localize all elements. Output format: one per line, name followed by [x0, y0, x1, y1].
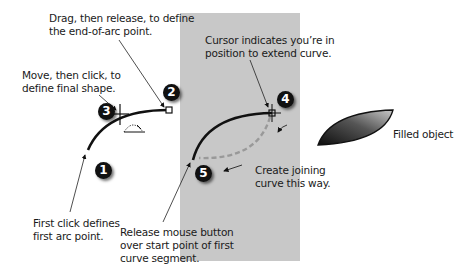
leader-cursor — [250, 60, 268, 107]
direction-arrow-bottom — [224, 165, 242, 171]
annotation-release: Release mouse button over start point of… — [120, 226, 234, 265]
leader-release — [163, 163, 190, 222]
annotation-filled-object: Filled object — [393, 128, 453, 141]
leader-first-click — [70, 155, 85, 212]
annotation-create-joining-line2: curve this way. — [255, 177, 330, 190]
annotation-cursor-line1: Cursor indicates you’re in — [205, 34, 335, 47]
leader-drag — [119, 40, 164, 107]
annotation-drag-line1: Drag, then release, to define — [49, 12, 194, 25]
annotation-first-click-line1: First click defines — [33, 217, 120, 230]
annotation-move-line2: define final shape. — [22, 82, 121, 95]
annotation-move: Move, then click, to define final shape. — [22, 69, 121, 95]
step-badge-5: 5 — [195, 165, 212, 182]
joining-curve-preview — [199, 117, 270, 158]
step-badge-1: 1 — [95, 162, 112, 179]
direction-arrow-top — [278, 125, 287, 132]
annotation-create-joining-line1: Create joining — [255, 164, 330, 177]
arc-tool-cursor-icon — [124, 125, 145, 132]
square-anchor-point-icon — [166, 107, 172, 113]
annotation-drag-line2: the end-of-arc point. — [49, 25, 194, 38]
annotation-cursor: Cursor indicates you’re in position to e… — [205, 34, 335, 60]
step-badge-3: 3 — [98, 103, 115, 120]
annotation-create-joining: Create joining curve this way. — [255, 164, 330, 190]
annotation-release-line2: over start point of first — [120, 239, 234, 252]
crosshair-cursor-icon-extend — [264, 104, 281, 122]
annotation-first-click-line2: first arc point. — [33, 230, 120, 243]
annotation-first-click: First click defines first arc point. — [33, 217, 120, 243]
filled-object-shape — [318, 110, 393, 145]
step-badge-4: 4 — [277, 91, 294, 108]
annotation-cursor-line2: position to extend curve. — [205, 47, 335, 60]
second-arc-curve — [193, 113, 272, 160]
annotation-release-line3: curve segment. — [120, 252, 234, 265]
annotation-release-line1: Release mouse button — [120, 226, 234, 239]
annotation-move-line1: Move, then click, to — [22, 69, 121, 82]
step-badge-2: 2 — [163, 84, 180, 101]
annotation-drag: Drag, then release, to define the end-of… — [49, 12, 194, 38]
